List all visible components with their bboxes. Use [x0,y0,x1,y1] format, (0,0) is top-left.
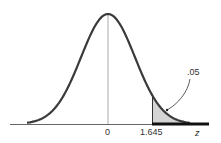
tick-label-zero: 0 [105,128,110,137]
normal-distribution-chart: 0 1.645 z .05 [0,0,221,143]
arrow-head [166,109,168,111]
axis-label-z: z [195,129,200,138]
shaded-tail-region [152,96,190,124]
normal-curve [27,14,190,123]
tick-label-critical: 1.645 [140,128,163,137]
annotation-arrow [167,79,190,110]
area-annotation: .05 [187,68,200,77]
